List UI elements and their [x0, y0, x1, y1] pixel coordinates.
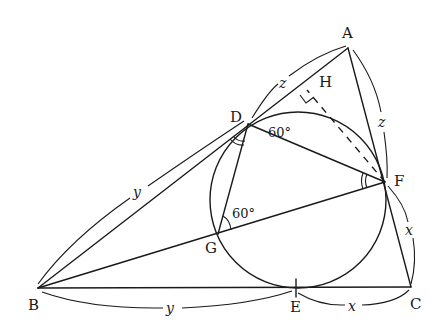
- label-C: C: [410, 295, 421, 313]
- side-BC: [38, 287, 411, 288]
- label-A: A: [341, 24, 353, 42]
- diagram-svg: A B C D E F G H z z y y x x 60° 60°: [0, 0, 448, 330]
- label-E: E: [290, 298, 301, 316]
- side-CA: [348, 48, 411, 287]
- right-angle-mark-H: [300, 95, 314, 103]
- angle-mark-DFG-2: [362, 173, 364, 189]
- label-CF-x: x: [405, 222, 413, 238]
- segment-FH-dashed: [307, 90, 385, 182]
- label-G: G: [205, 239, 217, 257]
- label-B: B: [28, 296, 39, 314]
- label-CE-x: x: [348, 298, 356, 314]
- label-F: F: [394, 172, 404, 190]
- angle-label-DGF: 60°: [232, 206, 255, 221]
- label-AF-z: z: [377, 114, 386, 130]
- label-BE-y: y: [165, 300, 175, 316]
- label-H: H: [319, 73, 332, 91]
- angle-label-ADF: 60°: [268, 125, 291, 140]
- angle-mark-DFG: [366, 174, 368, 188]
- inscribed-circle: [210, 112, 386, 288]
- angle-mark-DGF: [223, 216, 231, 230]
- segment-BF: [38, 182, 385, 288]
- side-AB: [38, 48, 348, 288]
- label-D: D: [230, 108, 242, 126]
- bracket-BD-y: [38, 121, 244, 284]
- label-BD-y: y: [132, 184, 142, 200]
- label-AD-z: z: [278, 75, 287, 91]
- geometry-diagram: A B C D E F G H z z y y x x 60° 60°: [0, 0, 448, 330]
